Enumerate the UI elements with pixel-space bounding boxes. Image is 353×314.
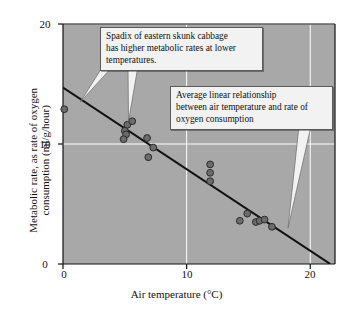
y-axis-label: Metabolic rate, as rate of oxygen consum… [27, 55, 52, 265]
x-axis-label: Air temperature (°C) [0, 288, 353, 300]
data-point [129, 118, 136, 125]
data-point [207, 169, 214, 176]
data-point [207, 161, 214, 168]
x-tick-label-20: 20 [299, 268, 321, 280]
x-tick-label-10: 10 [176, 268, 198, 280]
data-point [61, 106, 68, 113]
figure-container: 20 10 0 0 10 20 Air temperature (°C) Met… [0, 0, 353, 314]
annotation-regression: Average linear relationship between air … [170, 86, 333, 130]
data-point [236, 217, 243, 224]
data-point [144, 135, 151, 142]
x-tick-label-0: 0 [53, 268, 75, 280]
data-point [244, 210, 251, 217]
data-point [261, 216, 268, 223]
data-point [145, 154, 152, 161]
annotation-spadix: Spadix of eastern skunk cabbage has high… [100, 27, 263, 71]
data-point [207, 178, 214, 185]
data-point [120, 136, 127, 143]
y-tick-label-20: 20 [34, 18, 56, 30]
data-point [269, 223, 276, 230]
data-point [150, 144, 157, 151]
